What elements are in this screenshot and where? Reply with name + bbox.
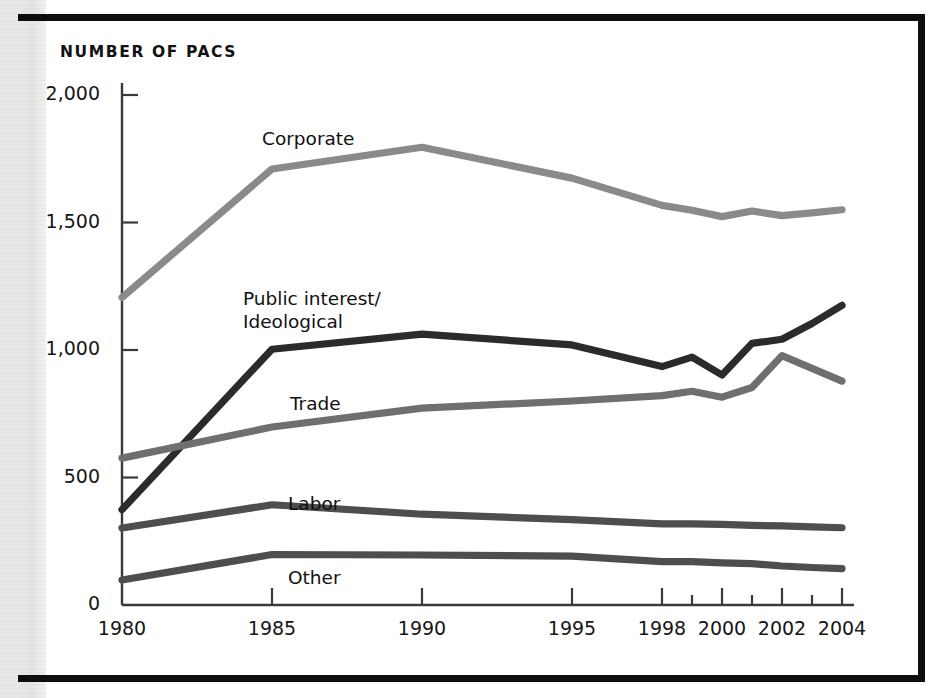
series-label-labor: Labor [288,493,340,516]
series-layer [122,147,842,580]
line-chart-plot [0,0,947,698]
series-line-trade [122,356,842,459]
series-line-corporate [122,147,842,297]
x-axis-tick-label: 2004 [818,617,866,639]
x-axis-tick-label: 1998 [638,617,686,639]
x-axis-tick-label: 2002 [758,617,806,639]
y-axis-tick-label: 2,000 [0,82,100,104]
y-axis-tick-label: 1,000 [0,337,100,359]
x-axis-tick-label: 1995 [548,617,596,639]
series-label-corporate: Corporate [262,128,354,151]
x-axis-tick-label: 1990 [398,617,446,639]
series-line-other [122,555,842,581]
y-axis-tick-label: 0 [0,592,100,614]
series-label-other: Other [288,567,341,590]
x-axis-tick-label: 1985 [248,617,296,639]
series-label-public-interest: Public interest/ [243,288,381,311]
figure-page: NUMBER OF PACS 2,0001,5001,0005000198019… [0,0,947,698]
series-line-labor [122,505,842,528]
x-axis-tick-label: 1980 [98,617,146,639]
series-label-ideological: Ideological [243,311,343,334]
y-axis-tick-label: 1,500 [0,210,100,232]
x-axis-tick-label: 2000 [698,617,746,639]
series-label-trade: Trade [290,393,341,416]
y-axis-tick-label: 500 [0,465,100,487]
